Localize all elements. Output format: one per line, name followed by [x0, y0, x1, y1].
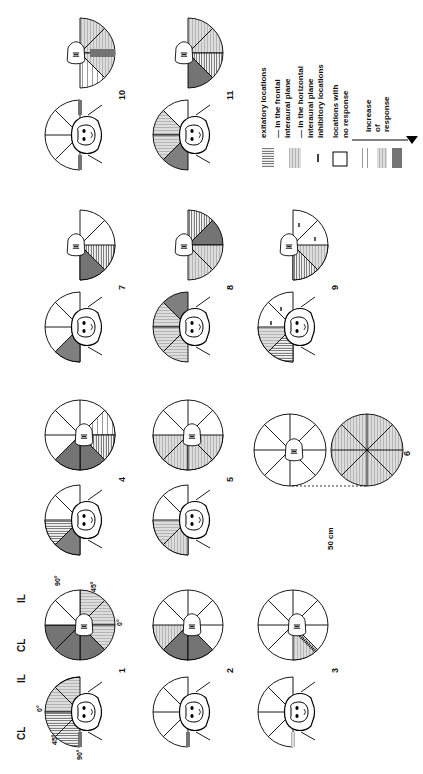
panel-4-horizontal [45, 485, 102, 555]
panel-11-frontal [175, 18, 223, 88]
legend-noresp-line2: no response [341, 90, 350, 138]
legend: exitatory locations — in the frontal int… [259, 64, 418, 168]
panel-number-7: 7 [117, 285, 127, 290]
panel-9-frontal [280, 210, 328, 280]
panel-10-frontal [67, 18, 115, 88]
legend-frontal-line1: — in the frontal [273, 79, 282, 138]
panel-number-8: 8 [225, 285, 235, 290]
panel-3-frontal [258, 590, 328, 660]
label-cl-2: CL [16, 639, 27, 652]
panel-9-horizontal [258, 292, 315, 362]
legend-increase-line3: response [382, 96, 391, 132]
panel-number-6: 6 [402, 451, 412, 456]
panel-number-1: 1 [117, 668, 127, 673]
legend-inhibitory: inhibitory locations [316, 64, 325, 138]
panel-4-frontal [45, 400, 115, 470]
legend-horizontal-line2: interaural plane [306, 78, 315, 138]
panel-11-horizontal [153, 100, 210, 170]
legend-increase-line1: increase [364, 99, 373, 132]
legend-frontal-line2: interaural plane [283, 78, 292, 138]
legend-noresp-line1: locations with [331, 85, 340, 138]
receptive-field-figure: CL IL CL IL 0° 45° 90° 90° 45° 0° 1 [0, 0, 423, 774]
legend-swatch-weak [362, 148, 372, 168]
panel-10-horizontal [45, 100, 102, 170]
panel-number-2: 2 [225, 668, 235, 673]
legend-swatch-frontal [262, 148, 274, 168]
panel-5-horizontal [153, 485, 210, 555]
angle-label-45-right: 45° [90, 581, 97, 592]
panel-number-10: 10 [117, 90, 127, 100]
label-cl-1: CL [16, 727, 27, 740]
panel-2-horizontal [153, 677, 210, 747]
column-labels: CL IL CL IL [16, 594, 27, 740]
panel-5-frontal [153, 400, 223, 470]
legend-swatch-no-response [333, 152, 347, 166]
panel-number-5: 5 [225, 477, 235, 482]
legend-swatch-medium [377, 148, 387, 168]
panel-number-3: 3 [330, 668, 340, 673]
panel-8-horizontal [153, 292, 210, 362]
panel-1-frontal [45, 590, 115, 660]
panel-3-horizontal [258, 677, 315, 747]
distance-label: 50 cm [326, 527, 335, 550]
legend-increase-line2: of [373, 124, 382, 132]
legend-swatch-horizontal [289, 148, 301, 168]
panel-2-frontal [153, 590, 223, 660]
panel-7-frontal [67, 210, 115, 280]
label-il-1: IL [16, 674, 27, 683]
angle-label-0-right: 0° [116, 619, 123, 626]
panel-number-4: 4 [117, 477, 127, 482]
panel-8-frontal [175, 210, 223, 280]
panel-6-frontal-near [254, 414, 326, 486]
panel-number-11: 11 [225, 90, 235, 100]
angle-label-90: 90° [76, 749, 83, 760]
angle-label-0: 0° [36, 705, 43, 712]
legend-excitatory-title: exitatory locations [259, 67, 268, 138]
panel-7-horizontal [45, 292, 102, 362]
panel-6-frontal-far [331, 414, 403, 486]
angle-label-90-right: 90° [54, 575, 61, 586]
legend-swatch-strong [392, 148, 402, 168]
angle-label-45: 45° [51, 734, 58, 745]
label-il-2: IL [16, 594, 27, 603]
legend-horizontal-line1: — in the horizontal [296, 66, 305, 138]
panel-number-9: 9 [330, 285, 340, 290]
